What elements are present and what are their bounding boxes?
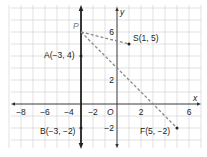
x-tick-label: −6 [40, 107, 50, 117]
point-a [80, 55, 83, 58]
x-tick-label: −8 [16, 107, 26, 117]
y-tick-label: 6 [109, 27, 114, 37]
point-f [176, 127, 179, 130]
label-s: S(1, 5) [133, 33, 159, 43]
y-tick-label: −2 [104, 123, 114, 133]
coordinate-plane: −8−6−4−226 62−2 x y O P A(−3, 4) B(−3, −… [0, 0, 207, 157]
y-axis-label: y [119, 7, 125, 17]
x-axis-label: x [192, 93, 198, 103]
origin-label: O [107, 107, 114, 117]
label-b: B(−3, −2) [40, 126, 76, 136]
x-tick-labels: −8−6−4−226 [16, 107, 191, 117]
label-p: P [73, 21, 79, 31]
y-tick-label: 2 [109, 75, 114, 85]
label-a: A(−3, 4) [44, 50, 75, 60]
x-tick-label: 2 [139, 107, 144, 117]
x-tick-label: −2 [88, 107, 98, 117]
x-tick-label: 6 [187, 107, 192, 117]
point-s [128, 43, 131, 46]
label-f: F(5, −2) [140, 126, 170, 136]
x-tick-label: −4 [64, 107, 74, 117]
point-b [80, 127, 83, 130]
